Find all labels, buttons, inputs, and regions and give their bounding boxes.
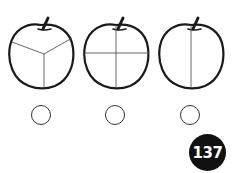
answer-circle-3[interactable] [180,105,200,125]
apple-quarters [82,16,152,90]
apple-icon [159,18,223,88]
apple-icon [84,18,149,88]
answer-circle-1[interactable] [31,105,51,125]
apple-thirds [7,16,77,90]
apple-icon [9,18,73,88]
page-number-badge: 137 [189,134,226,171]
apple-halves [157,16,227,90]
answer-circle-2[interactable] [105,105,125,125]
